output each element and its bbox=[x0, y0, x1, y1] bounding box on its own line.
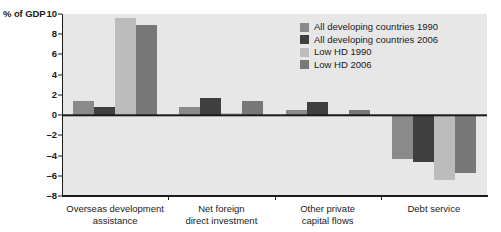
legend-item: All developing countries 1990 bbox=[300, 21, 438, 34]
x-axis-category-label: Net foreign direct investment bbox=[168, 203, 274, 226]
legend-swatch-icon bbox=[300, 60, 309, 69]
legend-item: All developing countries 2006 bbox=[300, 34, 438, 47]
bar bbox=[136, 25, 157, 115]
legend-label: All developing countries 1990 bbox=[314, 22, 438, 32]
legend-item: Low HD 1990 bbox=[300, 46, 438, 59]
bar bbox=[242, 101, 263, 115]
y-axis-title: % of GDP bbox=[3, 8, 45, 19]
legend-swatch-icon bbox=[300, 23, 309, 32]
bar bbox=[115, 18, 136, 115]
bar-chart: % of GDP 1086420–2–4–6–8 All developing … bbox=[0, 0, 501, 232]
legend-label: Low HD 2006 bbox=[314, 60, 372, 70]
bar bbox=[392, 115, 413, 158]
x-axis-category-label: Other private capital flows bbox=[275, 203, 381, 226]
x-axis-category-label: Debt service bbox=[381, 203, 487, 215]
x-axis-tick-mark bbox=[168, 196, 169, 200]
legend: All developing countries 1990All develop… bbox=[300, 21, 438, 71]
x-axis-tick-mark bbox=[275, 196, 276, 200]
legend-label: Low HD 1990 bbox=[314, 47, 372, 57]
y-axis-line bbox=[62, 14, 63, 196]
legend-swatch-icon bbox=[300, 35, 309, 44]
bar bbox=[434, 115, 455, 180]
legend-item: Low HD 2006 bbox=[300, 59, 438, 72]
x-axis-tick-mark bbox=[381, 196, 382, 200]
legend-label: All developing countries 2006 bbox=[314, 35, 438, 45]
zero-baseline bbox=[62, 114, 487, 115]
bar bbox=[413, 115, 434, 162]
legend-swatch-icon bbox=[300, 48, 309, 57]
bar bbox=[307, 102, 328, 115]
x-axis-category-label: Overseas development assistance bbox=[62, 203, 168, 226]
bar bbox=[200, 98, 221, 115]
bar bbox=[455, 115, 476, 173]
bar bbox=[73, 101, 94, 115]
